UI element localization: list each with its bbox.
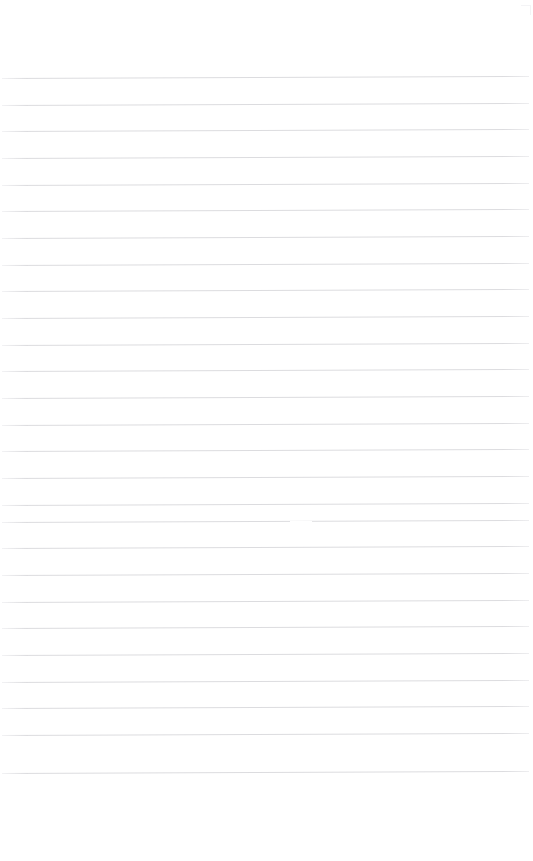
- ruled-line: [2, 546, 529, 549]
- ruled-line: [2, 600, 529, 603]
- ruled-line: [2, 653, 529, 656]
- ruled-line: [2, 503, 529, 506]
- ruled-line: [2, 423, 529, 426]
- ruled-line: [2, 733, 529, 736]
- ruled-line: [2, 520, 529, 523]
- ruled-line: [2, 263, 529, 266]
- ruled-line: [2, 396, 529, 399]
- ruled-line: [2, 680, 529, 683]
- ruled-line: [2, 343, 529, 346]
- ruled-line: [2, 76, 529, 79]
- ruled-line: [2, 369, 529, 372]
- ruled-line: [2, 103, 529, 106]
- ruled-line: [2, 289, 529, 292]
- scanned-page: [0, 0, 533, 861]
- ruled-line: [2, 156, 529, 159]
- ruled-line: [2, 771, 529, 774]
- ruled-line: [2, 449, 529, 452]
- ruled-line: [2, 706, 529, 709]
- erasure-gap-artifact: [290, 521, 312, 524]
- ruled-line: [2, 626, 529, 629]
- corner-speck-artifact: [521, 5, 531, 15]
- ruled-line: [2, 476, 529, 479]
- ruled-line: [2, 129, 529, 132]
- ruled-line: [2, 573, 529, 576]
- ruled-line: [2, 236, 529, 239]
- ruled-line: [2, 209, 529, 212]
- ruled-line: [2, 183, 529, 186]
- ruled-line: [2, 316, 529, 319]
- ruled-line-layer: [0, 0, 533, 861]
